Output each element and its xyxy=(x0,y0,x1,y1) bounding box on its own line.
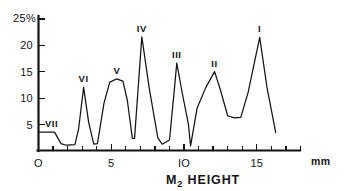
y-tick-label-10: 10 xyxy=(20,92,33,104)
chart-title-main: M xyxy=(166,173,177,187)
chart-container: 5 10 15 20 25% O 5 IO 15 mm VIIVIVIVIIII… xyxy=(0,0,355,191)
peak-label-v: V xyxy=(114,65,121,76)
x-tick-label-10: IO xyxy=(178,157,190,169)
x-axis-unit-label: mm xyxy=(311,155,331,167)
x-tick-label-0: O xyxy=(34,157,43,169)
peak-label-ii: II xyxy=(211,58,217,69)
peak-label-iii: III xyxy=(172,49,182,60)
chart-title: M2 HEIGHT xyxy=(166,173,240,189)
peak-label-iv: IV xyxy=(137,23,147,34)
y-tick-label-5: 5 xyxy=(27,119,33,131)
y-tick-label-20: 20 xyxy=(20,39,33,51)
y-tick-label-15: 15 xyxy=(20,66,33,78)
peak-label-i: I xyxy=(258,23,261,34)
chart-title-rest: HEIGHT xyxy=(183,173,240,187)
x-axis-ticks xyxy=(39,144,301,150)
x-tick-label-15: 15 xyxy=(250,157,263,169)
peak-label-vii: VII xyxy=(45,118,58,129)
peak-label-vi: VI xyxy=(79,73,89,84)
data-curve xyxy=(39,37,276,146)
y-axis-unit-label: 25% xyxy=(13,12,36,24)
y-axis-ticks xyxy=(39,19,45,125)
x-tick-label-5: 5 xyxy=(108,157,114,169)
frequency-polygon-chart: 5 10 15 20 25% O 5 IO 15 mm VIIVIVIVIIII… xyxy=(0,0,355,191)
